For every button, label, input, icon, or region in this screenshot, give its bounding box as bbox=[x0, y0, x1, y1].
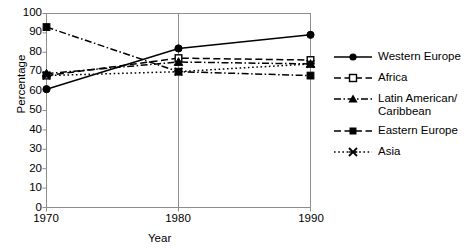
legend-item-asia: Asia bbox=[332, 145, 466, 159]
legend-label: Western Europe bbox=[374, 50, 461, 63]
legend-item-africa: Africa bbox=[332, 71, 466, 85]
legend: Western Europe Africa Latin American/ Ca… bbox=[332, 50, 466, 166]
legend-label: Africa bbox=[374, 71, 407, 84]
legend-label: Latin American/ Caribbean bbox=[374, 92, 457, 117]
legend-item-western-europe: Western Europe bbox=[332, 50, 466, 64]
filled-triangle-dashdot-icon bbox=[332, 92, 374, 106]
filled-square-dashed-icon bbox=[332, 124, 374, 138]
chart-figure: 100 90 80 70 60 50 40 30 20 10 0 1970 19… bbox=[0, 0, 466, 249]
x-cross-dotted-icon bbox=[332, 145, 374, 159]
legend-item-eastern-europe: Eastern Europe bbox=[332, 124, 466, 138]
legend-item-latin-american-caribbean: Latin American/ Caribbean bbox=[332, 92, 466, 117]
legend-label: Eastern Europe bbox=[374, 124, 458, 137]
open-square-dashed-icon bbox=[332, 71, 374, 85]
filled-circle-solid-icon bbox=[332, 50, 374, 64]
legend-label: Asia bbox=[374, 145, 400, 158]
